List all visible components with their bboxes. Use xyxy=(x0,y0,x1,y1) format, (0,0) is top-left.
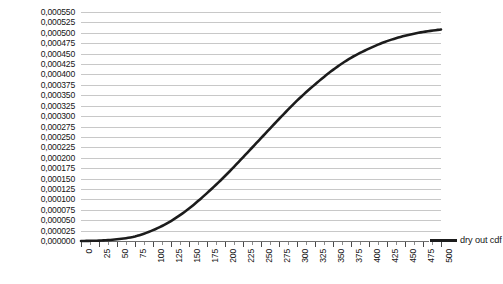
x-tick-label: 50 xyxy=(121,249,130,258)
x-tick-label: 450 xyxy=(409,249,418,263)
x-minor-tick xyxy=(396,242,397,245)
plot-area: dry out cdf xyxy=(81,12,441,241)
x-major-tick xyxy=(261,242,262,247)
x-major-tick xyxy=(423,242,424,247)
x-tick-label: 275 xyxy=(283,249,292,263)
y-tick-label: 0,000350 xyxy=(41,91,75,100)
x-tick-label: 475 xyxy=(427,249,436,263)
y-tick-label: 0,000300 xyxy=(41,112,75,121)
x-axis: 0255075100125150175200225250275300325350… xyxy=(81,242,442,284)
y-tick-label: 0,000175 xyxy=(41,164,75,173)
y-tick-label: 0,000025 xyxy=(41,226,75,235)
x-major-tick xyxy=(99,242,100,247)
x-tick-label: 375 xyxy=(355,249,364,263)
x-major-tick xyxy=(333,242,334,247)
y-tick-label: 0,000425 xyxy=(41,60,75,69)
x-major-tick xyxy=(387,242,388,247)
x-tick-label: 200 xyxy=(229,249,238,263)
x-tick-label: 175 xyxy=(211,249,220,263)
x-tick-label: 0 xyxy=(85,249,94,254)
x-tick-label: 425 xyxy=(391,249,400,263)
legend-label: dry out cdf xyxy=(460,235,502,245)
x-major-tick xyxy=(153,242,154,247)
x-minor-tick xyxy=(216,242,217,245)
x-major-tick xyxy=(207,242,208,247)
x-tick-label: 125 xyxy=(175,249,184,263)
x-tick-label: 225 xyxy=(247,249,256,263)
x-minor-tick xyxy=(162,242,163,245)
y-tick-label: 0,000275 xyxy=(41,122,75,131)
x-minor-tick xyxy=(108,242,109,245)
x-minor-tick xyxy=(378,242,379,245)
y-tick-label: 0,000225 xyxy=(41,143,75,152)
x-minor-tick xyxy=(144,242,145,245)
x-major-tick xyxy=(243,242,244,247)
y-tick-label: 0,000100 xyxy=(41,195,75,204)
x-minor-tick xyxy=(252,242,253,245)
y-tick-label: 0,000000 xyxy=(41,237,75,246)
x-minor-tick xyxy=(198,242,199,245)
x-minor-tick xyxy=(324,242,325,245)
y-tick-label: 0,000450 xyxy=(41,49,75,58)
x-major-tick xyxy=(135,242,136,247)
x-minor-tick xyxy=(360,242,361,245)
x-major-tick xyxy=(351,242,352,247)
x-tick-label: 250 xyxy=(265,249,274,263)
y-tick-label: 0,000550 xyxy=(41,8,75,17)
x-major-tick xyxy=(81,242,82,247)
y-tick-label: 0,000525 xyxy=(41,18,75,27)
x-minor-tick xyxy=(432,242,433,245)
x-tick-label: 150 xyxy=(193,249,202,263)
x-minor-tick xyxy=(342,242,343,245)
x-tick-label: 500 xyxy=(445,249,454,263)
y-tick-label: 0,000500 xyxy=(41,28,75,37)
x-major-tick xyxy=(117,242,118,247)
x-major-tick xyxy=(297,242,298,247)
x-major-tick xyxy=(171,242,172,247)
x-minor-tick xyxy=(414,242,415,245)
x-major-tick xyxy=(315,242,316,247)
x-major-tick xyxy=(279,242,280,247)
y-tick-label: 0,000400 xyxy=(41,70,75,79)
x-tick-label: 100 xyxy=(157,249,166,263)
y-tick-label: 0,000200 xyxy=(41,153,75,162)
y-tick-label: 0,000475 xyxy=(41,39,75,48)
x-minor-tick xyxy=(270,242,271,245)
x-minor-tick xyxy=(180,242,181,245)
x-minor-tick xyxy=(306,242,307,245)
x-minor-tick xyxy=(234,242,235,245)
y-tick-label: 0,000250 xyxy=(41,132,75,141)
y-tick-label: 0,000050 xyxy=(41,216,75,225)
y-axis: 0,0005500,0005250,0005000,0004750,000450… xyxy=(0,0,78,250)
x-tick-label: 300 xyxy=(301,249,310,263)
y-tick-label: 0,000125 xyxy=(41,184,75,193)
x-minor-tick xyxy=(90,242,91,245)
y-tick-label: 0,000325 xyxy=(41,101,75,110)
x-major-tick xyxy=(369,242,370,247)
x-tick-label: 400 xyxy=(373,249,382,263)
x-major-tick xyxy=(189,242,190,247)
x-tick-label: 325 xyxy=(319,249,328,263)
x-minor-tick xyxy=(288,242,289,245)
x-tick-label: 75 xyxy=(139,249,148,258)
y-tick-label: 0,000075 xyxy=(41,205,75,214)
x-major-tick xyxy=(441,242,442,247)
y-tick-label: 0,000375 xyxy=(41,80,75,89)
x-minor-tick xyxy=(126,242,127,245)
y-tick-label: 0,000150 xyxy=(41,174,75,183)
x-major-tick xyxy=(405,242,406,247)
x-tick-label: 350 xyxy=(337,249,346,263)
x-major-tick xyxy=(225,242,226,247)
x-tick-label: 25 xyxy=(103,249,112,258)
series-dry-out-cdf xyxy=(81,12,441,241)
